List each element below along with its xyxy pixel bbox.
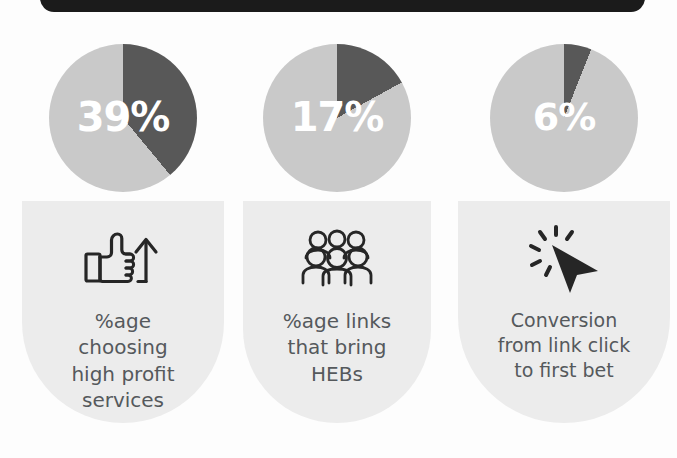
pie-3-value: 6% (490, 98, 638, 136)
pie-2-value: 17% (263, 97, 411, 137)
icon-group-of-people (289, 222, 385, 296)
group-of-people-icon (298, 228, 376, 290)
pie-chart-3: 6% (490, 44, 638, 192)
stat-column-1: 39% %age choosing high profit se (22, 0, 224, 458)
icon-mouse-cursor-click (516, 222, 612, 296)
icon-thumbs-up-arrow-up (75, 222, 171, 296)
pie-3-graphic: 6% (490, 44, 638, 192)
stat-column-3: 6% Conversion from link click to first b… (458, 0, 670, 458)
stat-caption-3: Conversion from link click to first bet (460, 308, 668, 383)
pie-2-graphic: 17% (263, 44, 411, 192)
stat-caption-1: %age choosing high profit services (28, 308, 218, 414)
stat-caption-2: %age links that bring HEBs (249, 308, 425, 387)
stat-column-2: 17% %age links that bri (243, 0, 431, 458)
pie-chart-1: 39% (49, 44, 197, 192)
thumbs-up-arrow-up-icon (80, 226, 166, 292)
infographic-root: 39% %age choosing high profit se (0, 0, 677, 458)
pie-1-value: 39% (49, 97, 197, 137)
mouse-cursor-click-icon (522, 223, 606, 295)
pie-1-graphic: 39% (49, 44, 197, 192)
pie-chart-2: 17% (263, 44, 411, 192)
